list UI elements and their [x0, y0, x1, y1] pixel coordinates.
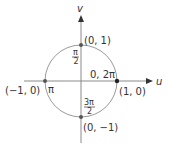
- coord-label-0-neg1: (0, −1): [83, 122, 118, 133]
- angle-numerator: 3π: [84, 98, 94, 107]
- angle-numerator: π: [73, 48, 78, 57]
- v-axis-label: v: [77, 3, 84, 14]
- u-axis-arrow-icon: [146, 78, 153, 84]
- angle-denominator: 2: [87, 107, 92, 116]
- angle-label-pi-over-2: π 2: [72, 48, 79, 66]
- angle-denominator: 2: [74, 57, 79, 66]
- point-0-1: (0, 1) π 2: [72, 35, 111, 66]
- unit-circle-diagram: u v (1, 0) 0, 2π (0, 1) π 2 (−1, 0) π (0…: [0, 0, 171, 155]
- angle-label-0-2pi: 0, 2π: [90, 69, 115, 80]
- point-neg1-0: (−1, 0) π: [5, 79, 54, 96]
- coord-label-0-1: (0, 1): [84, 35, 111, 46]
- coord-label-1-0: (1, 0): [119, 86, 146, 97]
- point-1-0: (1, 0) 0, 2π: [90, 69, 146, 97]
- v-axis-arrow-icon: [78, 15, 84, 22]
- angle-label-3pi-over-2: 3π 2: [84, 98, 95, 116]
- point-marker-neg1-0: [43, 79, 47, 83]
- point-marker-1-0: [115, 79, 119, 83]
- point-marker-0-1: [79, 43, 83, 47]
- coord-label-neg1-0: (−1, 0): [5, 85, 40, 96]
- point-marker-0-neg1: [79, 115, 83, 119]
- angle-label-pi: π: [48, 84, 54, 95]
- u-axis-label: u: [156, 76, 162, 87]
- point-0-neg1: (0, −1) 3π 2: [79, 98, 118, 133]
